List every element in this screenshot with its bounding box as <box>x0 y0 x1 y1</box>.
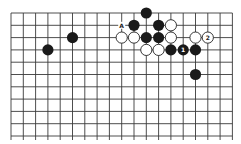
black-stone-icon <box>42 44 53 55</box>
white-stone <box>141 44 152 55</box>
white-stone-icon <box>153 44 164 55</box>
white-stone-icon <box>141 44 152 55</box>
black-stone-icon <box>67 32 78 43</box>
black-stone-icon <box>141 7 152 18</box>
move-number-label: 1 <box>181 46 185 53</box>
black-stone-icon <box>153 20 164 31</box>
black-stone <box>153 32 164 43</box>
white-stone-icon <box>116 32 127 43</box>
white-stone <box>165 32 176 43</box>
black-stone-icon <box>190 69 201 80</box>
black-stone <box>190 44 201 55</box>
go-board[interactable]: A 21 <box>0 0 241 144</box>
white-stone-icon <box>165 20 176 31</box>
black-stone-icon <box>128 20 139 31</box>
point-marker-label: A <box>119 22 124 29</box>
white-stone <box>190 32 201 43</box>
black-stone <box>190 69 201 80</box>
black-stone-icon <box>190 44 201 55</box>
white-stone <box>128 32 139 43</box>
black-stone <box>42 44 53 55</box>
board-markers: A <box>118 22 125 29</box>
white-stone <box>165 20 176 31</box>
black-stone: 1 <box>178 44 189 55</box>
black-stone-icon <box>141 32 152 43</box>
black-stone <box>165 44 176 55</box>
white-stone: 2 <box>202 32 213 43</box>
black-stone <box>128 20 139 31</box>
white-stone <box>116 32 127 43</box>
move-number-label: 2 <box>206 34 210 41</box>
black-stone <box>141 32 152 43</box>
white-stone-icon <box>165 32 176 43</box>
board-stones: 21 <box>42 7 213 80</box>
black-stone <box>153 20 164 31</box>
white-stone-icon <box>128 32 139 43</box>
black-stone <box>141 7 152 18</box>
white-stone-icon <box>190 32 201 43</box>
black-stone-icon <box>153 32 164 43</box>
white-stone <box>153 44 164 55</box>
black-stone <box>67 32 78 43</box>
black-stone-icon <box>165 44 176 55</box>
